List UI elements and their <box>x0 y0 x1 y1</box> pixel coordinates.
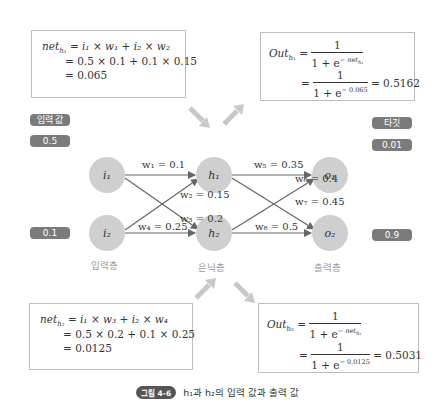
node-h2-label: h₂ <box>208 227 220 240</box>
node-i1-label: i₁ <box>103 169 111 182</box>
flow-arrow-net-h2-to-h2 <box>196 278 216 298</box>
input-value-i1: 0.5 <box>30 135 70 147</box>
figure-number-badge: 그림 4-6 <box>136 386 176 399</box>
target-value-o2: 0.9 <box>372 229 412 241</box>
layer-label-hidden: 은닉층 <box>198 260 225 274</box>
node-h1-label: h₁ <box>208 169 220 182</box>
flow-arrow-net-h1-to-h1 <box>190 108 210 128</box>
target-value-o1: 0.01 <box>372 139 412 151</box>
layer-label-output: 출력층 <box>314 260 341 274</box>
figure-caption-text: h₁과 h₂의 입력 값과 출력 값 <box>183 387 299 398</box>
node-o2-label: o₂ <box>324 227 335 240</box>
figure-caption: 그림 4-6 h₁과 h₂의 입력 값과 출력 값 <box>136 385 299 399</box>
flow-arrow-h1-to-out-h1 <box>224 104 244 124</box>
network-diagram: i₁ i₂ h₁ h₂ o₁ o₂ w₁ = 0.1 w₂ = 0.15 w₃ … <box>0 0 438 409</box>
weight-w6: w₆ = 0.4 <box>295 173 338 184</box>
layer-label-input: 입력층 <box>91 258 118 272</box>
weight-w1: w₁ = 0.1 <box>142 159 185 170</box>
node-i2-label: i₂ <box>103 227 111 240</box>
input-values-title: 입력 값 <box>30 114 70 126</box>
weight-w7: w₇ = 0.45 <box>295 196 345 207</box>
weight-w4: w₄ = 0.25 <box>138 221 188 232</box>
flow-arrow-h2-to-out-h2 <box>235 283 255 303</box>
weight-w2: w₂ = 0.15 <box>180 189 230 200</box>
input-value-i2: 0.1 <box>30 227 70 239</box>
weight-w5: w₅ = 0.35 <box>254 159 304 170</box>
weight-w8: w₈ = 0.5 <box>255 221 298 232</box>
target-values-title: 타깃 <box>372 117 412 129</box>
